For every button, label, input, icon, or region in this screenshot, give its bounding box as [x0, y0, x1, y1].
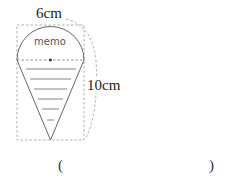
answer-open-paren: (: [58, 158, 63, 173]
width-label: 6cm: [35, 6, 63, 21]
cone-triangle: [17, 60, 84, 140]
center-dot: [49, 59, 52, 62]
memo-shape-diagram: [0, 0, 233, 189]
answer-close-paren: ): [209, 158, 214, 173]
ruled-lines: [26, 69, 76, 120]
memo-text: memo: [34, 37, 66, 47]
height-label: 10cm: [87, 78, 120, 93]
